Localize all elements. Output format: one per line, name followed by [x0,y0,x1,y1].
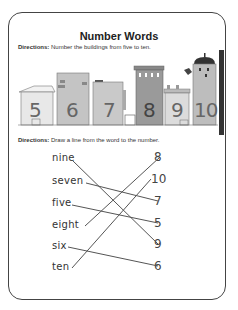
match-lines [0,0,238,310]
line-ten-10 [72,179,151,268]
line-nine-9 [72,160,158,244]
line-six-6 [68,247,158,266]
